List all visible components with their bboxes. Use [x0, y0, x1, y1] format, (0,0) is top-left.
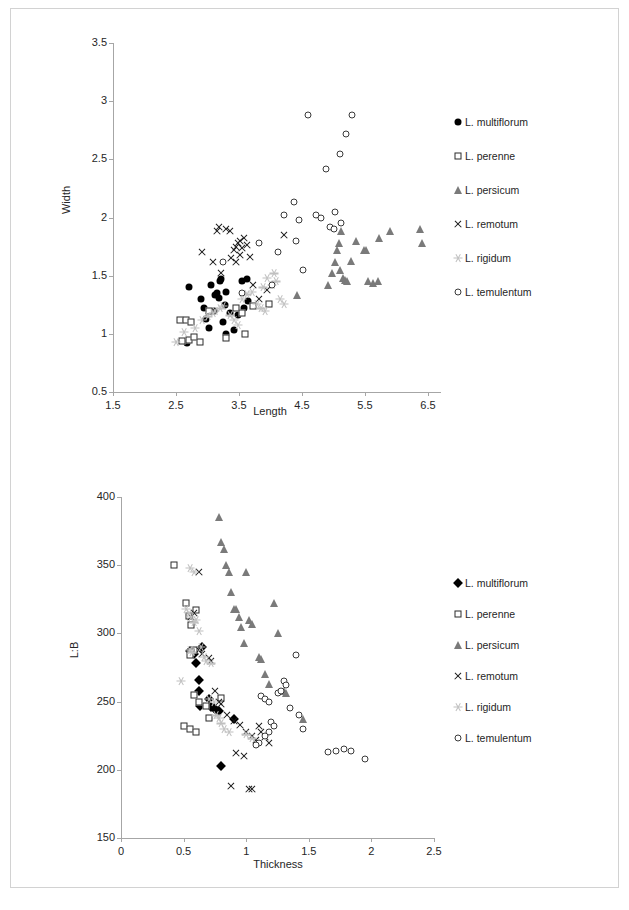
x-tick	[239, 392, 240, 396]
x-tick-label: 0	[101, 845, 141, 857]
legend-label: L. temulentum	[465, 732, 532, 744]
legend-bottom: L. multiflorumL. perenneL. persicumL. re…	[452, 577, 612, 752]
x-tick	[246, 838, 247, 842]
y-tick-label: 2	[67, 211, 107, 223]
legend-label: L. rigidum	[465, 701, 511, 713]
x-tick-label: 2.5	[414, 845, 454, 857]
legend-item-l-perenne: L. perenne	[452, 608, 515, 620]
figure-page: Width Length L. multiflorumL. perenneL. …	[0, 0, 629, 910]
chart-thickness-lb: L:B Thickness L. multiflorumL. perenneL.…	[0, 460, 629, 900]
y-axis-top	[113, 43, 114, 393]
legend-item-l-persicum: L. persicum	[452, 184, 519, 196]
y-tick	[117, 497, 121, 498]
legend-item-l-temulentum: L. temulentum	[452, 286, 532, 298]
legend-item-l-rigidum: L. rigidum	[452, 701, 511, 713]
legend-symbol-icon	[452, 701, 464, 713]
legend-item-l-remotum: L. remotum	[452, 670, 518, 682]
x-tick	[302, 392, 303, 396]
legend-item-l-persicum: L. persicum	[452, 639, 519, 651]
x-tick-label: 5.5	[345, 399, 385, 411]
legend-top: L. multiflorumL. perenneL. persicumL. re…	[452, 116, 612, 306]
y-tick-label: 150	[75, 831, 115, 843]
y-tick-label: 350	[75, 558, 115, 570]
x-tick	[121, 838, 122, 842]
x-axis-top	[113, 392, 441, 393]
y-tick-label: 1	[67, 327, 107, 339]
y-tick	[117, 633, 121, 634]
x-tick-label: 2.5	[156, 399, 196, 411]
y-tick-label: 250	[75, 695, 115, 707]
y-tick	[109, 334, 113, 335]
y-tick	[117, 565, 121, 566]
legend-item-l-temulentum: L. temulentum	[452, 732, 532, 744]
legend-item-l-multiflorum: L. multiflorum	[452, 116, 528, 128]
x-tick-label: 3.5	[219, 399, 259, 411]
legend-label: L. remotum	[465, 218, 518, 230]
x-tick	[184, 838, 185, 842]
legend-label: L. remotum	[465, 670, 518, 682]
legend-item-l-multiflorum: L. multiflorum	[452, 577, 528, 589]
legend-item-l-remotum: L. remotum	[452, 218, 518, 230]
x-tick	[176, 392, 177, 396]
y-tick-label: 3	[67, 94, 107, 106]
y-tick	[109, 101, 113, 102]
y-tick-label: 0.5	[67, 385, 107, 397]
x-tick-label: 1	[226, 845, 266, 857]
legend-symbol-icon	[452, 218, 464, 230]
y-tick-label: 2.5	[67, 152, 107, 164]
legend-label: L. persicum	[465, 184, 519, 196]
y-tick-label: 200	[75, 763, 115, 775]
legend-symbol-icon	[452, 670, 464, 682]
y-tick	[117, 702, 121, 703]
x-axis-title-bottom: Thickness	[238, 858, 318, 870]
legend-symbol-icon	[452, 639, 464, 651]
x-tick	[371, 838, 372, 842]
x-tick	[428, 392, 429, 396]
y-tick	[109, 159, 113, 160]
y-tick-label: 400	[75, 490, 115, 502]
y-tick	[117, 770, 121, 771]
plot-area-top	[113, 43, 428, 392]
x-tick	[434, 838, 435, 842]
legend-symbol-icon	[452, 252, 464, 264]
legend-symbol-icon	[452, 184, 464, 196]
x-axis-bottom	[121, 838, 435, 839]
legend-label: L. multiflorum	[465, 577, 528, 589]
legend-label: L. persicum	[465, 639, 519, 651]
y-tick-label: 1.5	[67, 269, 107, 281]
legend-symbol-icon	[452, 116, 464, 128]
y-tick	[109, 218, 113, 219]
legend-item-l-perenne: L. perenne	[452, 150, 515, 162]
legend-symbol-icon	[452, 286, 464, 298]
legend-symbol-icon	[452, 150, 464, 162]
legend-label: L. rigidum	[465, 252, 511, 264]
legend-symbol-icon	[452, 577, 464, 589]
x-tick-label: 2	[351, 845, 391, 857]
legend-label: L. temulentum	[465, 286, 532, 298]
x-tick-label: 6.5	[408, 399, 448, 411]
y-axis-title-top: Width	[60, 160, 72, 240]
legend-label: L. perenne	[465, 608, 515, 620]
y-axis-bottom	[121, 497, 122, 839]
legend-symbol-icon	[452, 608, 464, 620]
y-tick	[109, 43, 113, 44]
legend-label: L. perenne	[465, 150, 515, 162]
x-tick-label: 0.5	[164, 845, 204, 857]
y-tick-label: 300	[75, 626, 115, 638]
x-tick	[113, 392, 114, 396]
legend-label: L. multiflorum	[465, 116, 528, 128]
plot-area-bottom	[121, 497, 434, 838]
x-tick-label: 4.5	[282, 399, 322, 411]
legend-item-l-rigidum: L. rigidum	[452, 252, 511, 264]
legend-symbol-icon	[452, 732, 464, 744]
x-tick-label: 1.5	[93, 399, 133, 411]
x-tick-label: 1.5	[289, 845, 329, 857]
chart-length-width: Width Length L. multiflorumL. perenneL. …	[0, 0, 629, 440]
y-tick-label: 3.5	[67, 36, 107, 48]
x-tick	[365, 392, 366, 396]
x-tick	[309, 838, 310, 842]
y-axis-title-bottom: L:B	[68, 610, 80, 690]
y-tick	[109, 276, 113, 277]
